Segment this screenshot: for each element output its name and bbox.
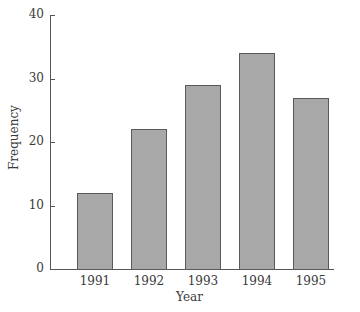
bar-1994: [239, 53, 275, 270]
bar-1995: [293, 98, 329, 270]
x-axis-title: Year: [176, 290, 203, 304]
bar-chart: 010203040 19911992199319941995 Year Freq…: [0, 0, 360, 312]
x-tick-label: 1995: [291, 274, 331, 288]
y-axis-title: Frequency: [7, 110, 21, 170]
y-tick-mark: [51, 206, 55, 207]
x-tick-label: 1992: [129, 274, 169, 288]
x-tick-label: 1993: [183, 274, 223, 288]
y-tick-mark: [51, 79, 55, 80]
y-tick-mark: [51, 142, 55, 143]
y-tick-label: 10: [14, 198, 44, 212]
y-tick-label: 40: [14, 7, 44, 21]
x-tick-label: 1994: [237, 274, 277, 288]
y-tick-label: 0: [14, 261, 44, 275]
y-tick-mark: [51, 15, 55, 16]
bar-1992: [131, 129, 167, 270]
y-tick-label: 30: [14, 71, 44, 85]
bar-1991: [77, 193, 113, 270]
bar-1993: [185, 85, 221, 270]
x-tick-label: 1991: [75, 274, 115, 288]
